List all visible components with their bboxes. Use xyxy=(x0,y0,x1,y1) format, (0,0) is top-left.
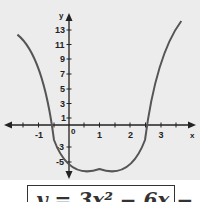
origin-label: 0 xyxy=(71,127,76,136)
x-axis: -1 1 2 3 x 0 xyxy=(4,122,196,141)
y-tick-label: 13 xyxy=(55,25,65,35)
x-axis-left-arrow-icon xyxy=(4,122,12,129)
y-tick-label: 3 xyxy=(60,99,65,109)
x-axis-label: x xyxy=(190,131,195,140)
y-axis-up-arrow-icon xyxy=(66,13,73,21)
x-axis-right-arrow-icon xyxy=(188,122,196,129)
equation-box: y = 3x² − 6x − 3 xyxy=(27,185,175,202)
equation-text: y = 3x² − 6x − 3 xyxy=(36,188,200,202)
x-tick-label: -1 xyxy=(35,130,43,140)
parabola-graph: -1 1 2 3 x 0 y 13 11 xyxy=(0,0,200,180)
parabola-curve xyxy=(17,21,181,171)
y-tick-label: 5 xyxy=(60,84,65,94)
graph-svg: -1 1 2 3 x 0 y 13 11 xyxy=(0,0,200,180)
y-axis-label: y xyxy=(59,11,64,20)
x-tick-label: 2 xyxy=(128,130,133,140)
y-tick-label: 11 xyxy=(55,40,65,50)
y-tick-label: 9 xyxy=(60,54,65,64)
y-tick-label: 1 xyxy=(61,113,66,123)
x-tick-label: 1 xyxy=(97,130,102,140)
x-tick-label: 3 xyxy=(159,130,164,140)
y-axis-down-arrow-icon xyxy=(66,171,73,179)
y-tick-label: 7 xyxy=(60,69,65,79)
y-axis: y 13 11 9 7 5 3 1 -3 -5 xyxy=(55,11,73,179)
